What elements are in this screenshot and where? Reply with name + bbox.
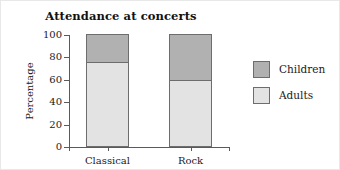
y-axis-line [69,35,70,148]
x-axis-label-classical: Classical [68,154,148,167]
y-axis-title-text: Percentage [23,53,37,129]
x-tick-mark [229,147,230,151]
y-tick-label: 20 [49,118,62,131]
y-tick-label: 100 [43,28,62,41]
y-tick-mark [64,102,69,103]
x-axis-label-rock: Rock [151,154,231,167]
bar-segment-adults[interactable] [86,62,129,147]
y-tick-label: 0 [56,140,62,153]
x-tick-mark [69,147,70,151]
chart-title: Attendance at concerts [1,9,241,23]
y-tick-label: 60 [49,73,62,86]
plot-area: 020406080100 ClassicalRock [69,35,229,147]
legend-swatch-children [253,61,270,78]
legend-label-adults: Adults [279,88,313,103]
x-tick-mark [108,147,109,151]
bar-segment-children[interactable] [169,34,212,81]
y-tick-mark [64,57,69,58]
bar-segment-children[interactable] [86,34,129,63]
bar-segment-adults[interactable] [169,80,212,147]
y-tick-label: 80 [49,50,62,63]
legend-label-children: Children [279,62,325,77]
y-tick-mark [64,125,69,126]
chart-figure: Attendance at concerts Percentage 020406… [0,0,340,170]
legend-swatch-adults [253,87,270,104]
x-tick-mark [191,147,192,151]
x-axis-line [69,147,230,148]
y-axis-title: Percentage [23,53,37,129]
y-tick-mark [64,35,69,36]
y-tick-mark [64,80,69,81]
y-tick-label: 40 [49,95,62,108]
